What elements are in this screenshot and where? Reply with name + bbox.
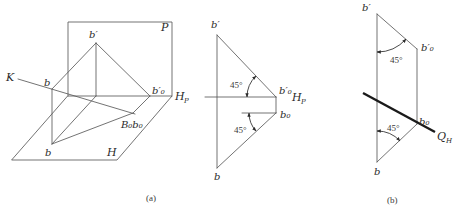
rotation-method-figure: K b b′ P b′₀ H P B₀b₀ b H b′ b′₀ H P b₀ … xyxy=(0,0,459,212)
label-b: b xyxy=(374,166,380,177)
label-b0-prime: b′₀ xyxy=(421,42,434,53)
axis-line-k xyxy=(18,79,135,114)
angle-arc-lower xyxy=(249,113,256,131)
label-b-prime: b′ xyxy=(211,19,220,30)
label-b0-rotated: B₀b₀ xyxy=(120,119,143,130)
label-k: K xyxy=(5,71,15,84)
label-b0-prime: b′₀ xyxy=(152,85,165,96)
panel-b: b′ b′₀ 45° b₀ Q H 45° b (b) xyxy=(362,2,453,205)
label-plane-h: H xyxy=(106,146,117,159)
label-b0: b₀ xyxy=(419,116,429,127)
label-axis-p-subscript: P xyxy=(183,97,189,105)
label-space-point-b: b xyxy=(44,77,50,88)
plane-h-outline xyxy=(12,96,172,160)
line-b-prime-to-b0-prime xyxy=(377,14,417,49)
angle-arc-upper xyxy=(247,76,256,97)
projector-b-prime-to-space-point xyxy=(52,43,96,89)
label-angle-upper: 45° xyxy=(390,55,403,65)
label-b0-prime: b′₀ xyxy=(279,85,292,96)
projector-b-to-axis xyxy=(52,96,96,144)
projector-b0-to-b0-prime xyxy=(133,96,150,113)
line-b0-to-b xyxy=(217,113,276,168)
label-angle-lower: 45° xyxy=(387,123,400,133)
panel-a-pictorial: K b b′ P b′₀ H P B₀b₀ b H xyxy=(5,21,189,160)
angle-arc-upper xyxy=(377,39,406,52)
label-b: b xyxy=(45,147,51,158)
label-trace-q: Q xyxy=(437,130,446,143)
line-b-prime-to-b0-prime xyxy=(96,43,150,96)
label-angle-upper: 45° xyxy=(230,80,243,90)
label-angle-lower: 45° xyxy=(234,125,247,135)
label-b-prime: b′ xyxy=(89,29,98,40)
label-b: b xyxy=(214,171,220,182)
label-axis-p-subscript: P xyxy=(300,98,306,106)
panel-a-projection: b′ b′₀ H P b₀ b 45° 45° (a) xyxy=(146,19,306,203)
label-plane-p: P xyxy=(160,21,169,34)
label-b0: b₀ xyxy=(280,109,290,120)
line-b-prime-to-b0-prime xyxy=(217,35,276,97)
label-trace-h-subscript: H xyxy=(445,137,453,145)
caption-b: (b) xyxy=(387,195,398,205)
label-b-prime: b′ xyxy=(362,2,371,13)
caption-a: (a) xyxy=(146,193,156,203)
